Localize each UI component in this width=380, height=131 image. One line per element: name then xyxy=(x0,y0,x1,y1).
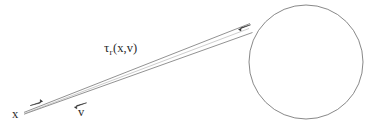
figure-canvas: τr(x,v) x v xyxy=(0,0,380,131)
backward-arrowhead xyxy=(30,100,42,106)
diagram-svg xyxy=(0,0,380,131)
tau-travel-time-label: τr(x,v) xyxy=(104,41,137,57)
target-circle xyxy=(249,5,363,119)
wedge-lower-edge xyxy=(24,33,253,115)
direction-vector-label: v xyxy=(78,106,84,119)
tau-symbol: τ xyxy=(104,40,109,55)
origin-point-label: x xyxy=(12,108,18,121)
wedge-upper-edge xyxy=(24,24,250,113)
tau-arguments: (x,v) xyxy=(113,41,137,55)
